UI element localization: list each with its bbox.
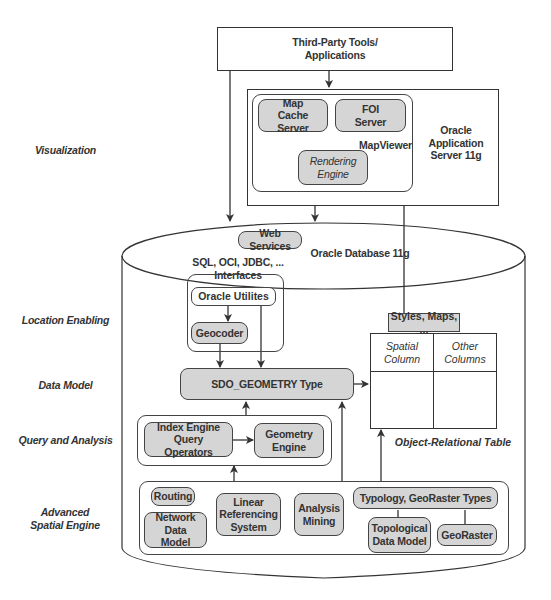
georaster-box: GeoRaster (437, 524, 497, 546)
styles-maps-box: Styles, Maps, ... (388, 313, 460, 332)
layer-label-data-model: Data Model (8, 375, 123, 395)
app-server-label: Oracle Application Server 11g (416, 128, 496, 158)
mapviewer-label: MapViewer (358, 138, 413, 152)
rendering-engine-box: Rendering Engine (298, 150, 368, 185)
index-engine-box: Index Engine Query Operators (144, 422, 233, 457)
map-cache-server-box: Map Cache Server (258, 99, 328, 132)
topological-data-model-box: Topological Data Model (368, 517, 431, 553)
table-header-other-columns: Other Columns (435, 336, 495, 370)
routing-box: Routing (151, 487, 195, 506)
sdo-geometry-box: SDO_GEOMETRY Type (180, 368, 354, 400)
geometry-engine-box: Geometry Engine (254, 423, 324, 458)
layer-label-location-enabling: Location Enabling (8, 310, 123, 330)
linear-referencing-box: Linear Referencing System (216, 493, 281, 536)
network-data-model-box: Network Data Model (144, 512, 207, 548)
third-party-tools-box: Third-Party Tools/ Applications (217, 27, 453, 71)
foi-server-box: FOI Server (335, 99, 406, 132)
analysis-mining-box: Analysis Mining (294, 493, 344, 536)
database-title: Oracle Database 11g (305, 245, 415, 261)
web-services-box: Web Services (238, 231, 302, 249)
oracle-utilities-box: Oracle Utilites (191, 287, 276, 306)
layer-label-query-analysis: Query and Analysis (8, 430, 123, 450)
table-header-divider (370, 371, 497, 372)
geocoder-box: Geocoder (191, 322, 248, 344)
table-header-spatial-column: Spatial Column (372, 336, 432, 370)
table-caption: Object-Relational Table (388, 434, 518, 450)
typology-georaster-types-box: Typology, GeoRaster Types (353, 487, 498, 509)
layer-label-advanced-spatial-engine: Advanced Spatial Engine (25, 502, 105, 536)
layer-label-visualization: Visualization (8, 140, 123, 160)
